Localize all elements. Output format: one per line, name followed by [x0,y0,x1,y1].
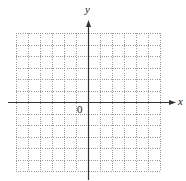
axes [8,20,176,180]
y-axis-arrow-icon [86,20,91,27]
coordinate-plane [0,0,186,181]
x-axis-arrow-icon [169,100,176,105]
y-axis-label: y [85,4,90,15]
origin-label: 0 [77,104,83,115]
x-axis-label: x [178,96,183,107]
